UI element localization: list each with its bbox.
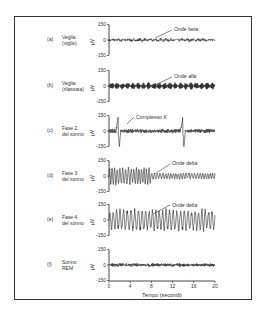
annotation-leader (153, 205, 170, 214)
panel-e: (e)Fase 4del sonnoμV1500-150Onde delta (47, 201, 215, 238)
panel-state-sublabel: (rilassata) (62, 86, 84, 92)
y-tick-label: 150 (98, 157, 107, 163)
y-tick-label: -150 (96, 98, 106, 104)
panel-letter: (d) (47, 172, 53, 178)
panel-letter: (a) (47, 36, 53, 42)
y-tick-label: 150 (98, 246, 107, 252)
wave-annotation: Complesso K (136, 114, 167, 120)
wave-annotation: Onde beta (174, 26, 198, 32)
y-tick-label: 0 (103, 37, 106, 43)
y-tick-label: -150 (96, 277, 106, 283)
y-tick-label: 150 (98, 201, 107, 207)
y-tick-label: -150 (96, 232, 106, 238)
panel-letter: (e) (47, 216, 53, 222)
y-tick-label: 0 (103, 173, 106, 179)
panel-a: (a)Veglia(vigile)μV1500-150Onde beta (47, 21, 215, 58)
wave-annotation: Onde alfa (174, 73, 197, 79)
panel-state-sublabel: del sonno (62, 131, 84, 137)
eeg-trace (109, 82, 215, 89)
panel-f: (f)SonnoREMμV1500-150 (47, 246, 215, 283)
panel-state-sublabel: (vigile) (62, 40, 77, 46)
eeg-chart: (a)Veglia(vigile)μV1500-150Onde beta(b)V… (0, 0, 264, 317)
annotation-leader (127, 117, 134, 124)
x-tick-label: 4 (129, 283, 132, 289)
y-unit-label: μV (89, 174, 95, 181)
x-tick-label: 8 (150, 283, 153, 289)
y-unit-label: μV (89, 263, 95, 270)
eeg-trace (109, 117, 215, 146)
eeg-trace (109, 263, 215, 267)
y-tick-label: -150 (96, 188, 106, 194)
y-tick-label: 0 (103, 128, 106, 134)
panel-b: (b)Veglia(rilassata)μV1500-150Onde alfa (47, 67, 215, 104)
y-tick-label: -150 (96, 143, 106, 149)
y-unit-label: μV (89, 84, 95, 91)
panel-letter: (f) (47, 261, 52, 267)
panel-letter: (b) (47, 82, 53, 88)
x-tick-label: 0 (108, 283, 111, 289)
y-unit-label: μV (89, 129, 95, 136)
annotation-leader (155, 164, 170, 174)
panel-state-sublabel: REM (62, 265, 73, 271)
y-unit-label: μV (89, 38, 95, 45)
panel-c: (c)Fase 2del sonnoμV1500-150Complesso K (47, 112, 215, 149)
panel-state-sublabel: del sonno (62, 176, 84, 182)
panel-d: (d)Fase 3del sonnoμV1500-150Onde delta (47, 157, 215, 194)
panel-state-sublabel: del sonno (62, 220, 84, 226)
y-tick-label: 150 (98, 112, 107, 118)
y-tick-label: 0 (103, 217, 106, 223)
y-tick-label: 150 (98, 67, 107, 73)
eeg-trace (109, 208, 215, 231)
eeg-trace (109, 38, 215, 42)
y-tick-label: 0 (103, 262, 106, 268)
eeg-trace (109, 167, 215, 185)
y-tick-label: 0 (103, 83, 106, 89)
x-axis-label: Tempo (secondi) (142, 292, 182, 298)
annotation-leader (155, 30, 172, 38)
wave-annotation: Onde delta (172, 202, 197, 208)
y-tick-label: -150 (96, 52, 106, 58)
x-tick-label: 20 (212, 283, 218, 289)
x-tick-label: 16 (191, 283, 197, 289)
x-tick-label: 12 (170, 283, 176, 289)
y-tick-label: 150 (98, 21, 107, 27)
y-unit-label: μV (89, 218, 95, 225)
wave-annotation: Onde delta (172, 160, 197, 166)
panel-letter: (c) (47, 127, 53, 133)
x-axis: 048121620 (108, 281, 218, 289)
